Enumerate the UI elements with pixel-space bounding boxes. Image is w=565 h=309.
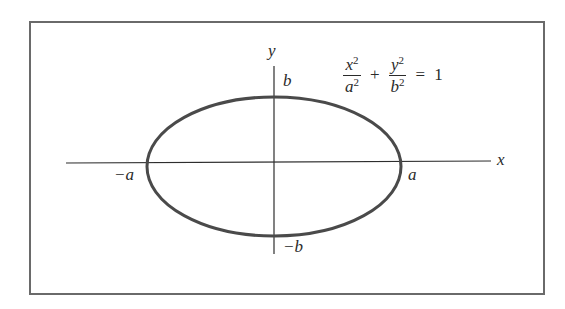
a-intercept-label: a — [408, 166, 417, 183]
x-axis — [66, 161, 491, 163]
equation-rhs: 1 — [434, 65, 443, 85]
denominator-b: b — [391, 77, 400, 96]
denominator-a: a — [345, 77, 354, 96]
ellipse-plot — [0, 0, 565, 309]
ellipse-equation: x2 a2 + y2 b2 = 1 — [343, 56, 443, 94]
neg-a-intercept-label: −a — [114, 166, 134, 183]
fraction-y-over-b: y2 b2 — [389, 56, 407, 95]
exponent: 2 — [399, 54, 405, 66]
numerator-x: x — [345, 55, 353, 74]
exponent: 2 — [354, 76, 360, 88]
exponent: 2 — [353, 54, 359, 66]
b-intercept-label: b — [283, 72, 292, 89]
plus-sign: + — [370, 65, 380, 85]
neg-b-intercept-label: −b — [283, 238, 303, 255]
y-axis-label: y — [268, 42, 276, 59]
equals-sign: = — [416, 65, 426, 85]
numerator-y: y — [391, 55, 399, 74]
exponent: 2 — [399, 76, 405, 88]
x-axis-label: x — [497, 151, 505, 168]
fraction-x-over-a: x2 a2 — [343, 56, 361, 95]
